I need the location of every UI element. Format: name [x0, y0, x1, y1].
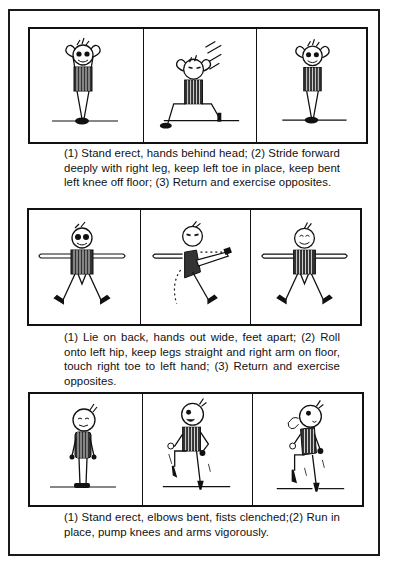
hip-roll-figure-icon — [141, 210, 250, 324]
exercise-2-step-3-figure — [250, 210, 360, 324]
lying-figure-icon — [251, 210, 360, 324]
exercise-3-step-1-figure — [30, 394, 142, 505]
exercise-3-caption: (1) Stand erect, elbows bent, fists clen… — [64, 510, 340, 539]
exercise-2-caption: (1) Lie on back, hands out wide, feet ap… — [64, 330, 340, 388]
lunge-figure-icon — [144, 29, 256, 142]
lying-figure-icon — [29, 210, 140, 324]
running-figure-icon — [143, 394, 252, 505]
exercise-3-illustration-strip — [28, 392, 364, 507]
exercise-3-step-2-figure — [142, 394, 252, 505]
exercise-2-step-2-figure — [140, 210, 250, 324]
exercise-1-step-2-figure — [143, 29, 256, 142]
running-puffing-figure-icon — [253, 394, 362, 505]
standing-elbows-bent-figure-icon — [30, 394, 142, 505]
standing-figure-icon — [30, 29, 143, 142]
exercise-1-caption: (1) Stand erect, hands behind head; (2) … — [64, 146, 340, 190]
exercise-1-illustration-strip — [28, 27, 368, 144]
exercise-1-step-1-figure — [30, 29, 143, 142]
exercise-3-step-3-figure — [252, 394, 362, 505]
exercise-1-step-3-figure — [256, 29, 366, 142]
standing-figure-icon — [257, 29, 366, 142]
exercise-2-illustration-strip — [27, 208, 362, 326]
exercise-page: (1) Stand erect, hands behind head; (2) … — [8, 9, 380, 556]
exercise-2-step-1-figure — [29, 210, 140, 324]
